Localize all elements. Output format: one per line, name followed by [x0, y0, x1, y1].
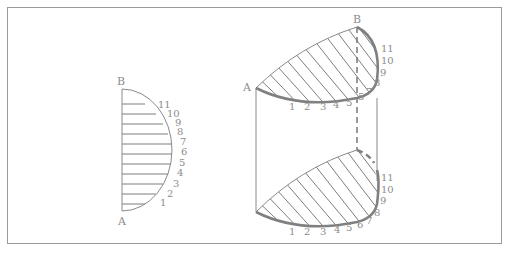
left-hatch-lines: [122, 104, 172, 204]
left-label-3: 3: [173, 178, 179, 189]
bottom-label-5: 5: [346, 222, 352, 233]
right-half-cylinder: A B 1 2 3 4 5 5 7 8 9 10 11 1: [242, 13, 394, 237]
bottom-curved-edge: [256, 170, 379, 226]
top-dashed-crossing-label: 5: [358, 91, 364, 102]
top-side-label-11: 11: [381, 43, 394, 54]
top-bottom-label-3: 3: [320, 101, 326, 112]
top-side-label-7: 7: [366, 86, 372, 97]
left-label-6: 6: [181, 146, 187, 157]
bottom-label-6: 6: [357, 219, 363, 230]
bottom-side-label-10: 10: [381, 184, 394, 195]
top-point-a: A: [242, 81, 252, 94]
bottom-label-2: 2: [304, 226, 310, 237]
top-bottom-label-4: 4: [333, 99, 339, 110]
top-side-label-8: 8: [374, 77, 380, 88]
bottom-side-label-11: 11: [381, 172, 394, 183]
left-label-2: 2: [167, 188, 173, 199]
bottom-label-7: 7: [366, 215, 372, 226]
diagram-canvas: B A 1 2 3 4 5 6 7 8 9 10 11: [0, 0, 510, 253]
top-bottom-label-5: 5: [346, 97, 352, 108]
bottom-label-3: 3: [320, 226, 326, 237]
left-label-7: 7: [180, 136, 186, 147]
top-point-b: B: [353, 13, 361, 26]
left-label-1: 1: [160, 197, 166, 208]
bottom-side-label-8: 8: [374, 207, 380, 218]
left-label-4: 4: [177, 167, 183, 178]
left-point-a: A: [117, 215, 127, 228]
left-label-5: 5: [179, 157, 185, 168]
top-bottom-label-1: 1: [289, 101, 295, 112]
top-side-label-10: 10: [381, 55, 394, 66]
left-half-disc: B A 1 2 3 4 5 6 7 8 9 10 11: [117, 75, 187, 228]
bottom-side-label-9: 9: [380, 195, 386, 206]
bottom-label-4: 4: [334, 224, 340, 235]
left-point-b: B: [117, 75, 125, 88]
top-bottom-label-2: 2: [304, 101, 310, 112]
bottom-label-1: 1: [289, 226, 295, 237]
left-label-11: 11: [158, 99, 171, 110]
top-side-label-9: 9: [380, 67, 386, 78]
